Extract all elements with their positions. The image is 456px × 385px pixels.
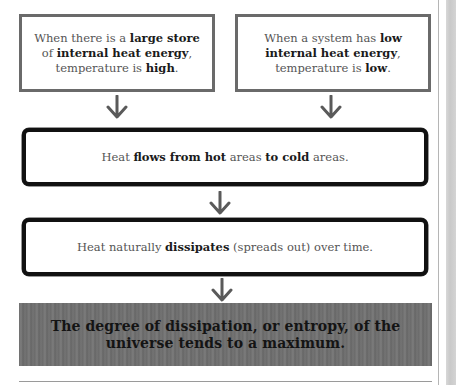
arrow-down-icon: [209, 191, 231, 215]
text-fragment: .: [387, 61, 391, 75]
dissipation-text: Heat naturally dissipates (spreads out) …: [77, 240, 373, 255]
bottom-divider: [19, 381, 432, 382]
text-fragment: When a system has: [264, 31, 380, 45]
emphasis-flows-from-hot: flows from hot: [133, 150, 226, 164]
text-fragment: When there is a: [34, 31, 130, 45]
emphasis-dissipates: dissipates: [165, 240, 229, 254]
low-energy-box: When a system has low internal heat ener…: [235, 14, 431, 92]
emphasis-low: low: [365, 61, 387, 75]
text-fragment: Heat naturally: [77, 240, 165, 254]
text-fragment: areas: [226, 150, 265, 164]
text-fragment: (spreads out) over time.: [229, 240, 373, 254]
entropy-conclusion-banner: The degree of dissipation, or entropy, o…: [19, 303, 432, 366]
arrow-down-icon: [211, 278, 233, 302]
text-fragment: Heat: [101, 150, 133, 164]
heat-flow-text: Heat flows from hot areas to cold areas.: [101, 150, 348, 165]
emphasis-to-cold: to cold: [265, 150, 309, 164]
emphasis-internal-heat-energy: internal heat energy: [57, 46, 189, 60]
book-spine-shadow: [446, 0, 456, 385]
conclusion-text: The degree of dissipation, or entropy, o…: [39, 318, 412, 352]
dissipation-box: Heat naturally dissipates (spreads out) …: [22, 218, 428, 276]
diagram-page: When there is a large store of internal …: [0, 0, 456, 385]
arrow-down-icon: [106, 95, 128, 119]
low-energy-text: When a system has low internal heat ener…: [248, 31, 418, 76]
emphasis-large-store: large store: [130, 31, 200, 45]
text-fragment: areas.: [309, 150, 348, 164]
text-fragment: .: [175, 61, 179, 75]
high-energy-box: When there is a large store of internal …: [19, 14, 215, 92]
high-energy-text: When there is a large store of internal …: [32, 31, 202, 76]
heat-flow-box: Heat flows from hot areas to cold areas.: [22, 128, 428, 186]
arrow-down-icon: [320, 95, 342, 119]
text-fragment: of: [42, 46, 57, 60]
page-edge-line: [438, 0, 439, 385]
emphasis-high: high: [146, 61, 175, 75]
